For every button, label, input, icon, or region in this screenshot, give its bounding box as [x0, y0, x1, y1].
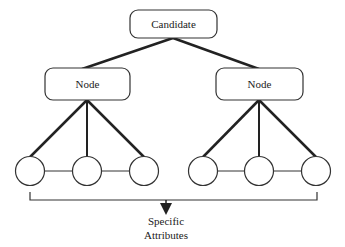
output-label-line1: Specific: [148, 215, 184, 227]
leaf-circle: [189, 157, 218, 186]
leaf-circle: [73, 157, 102, 186]
leaf-circle: [16, 157, 45, 186]
candidate-label: Candidate: [151, 18, 196, 30]
output-label-line2: Attributes: [144, 229, 188, 241]
edge-left-leaf3: [87, 100, 144, 157]
node-label-right: Node: [248, 78, 272, 90]
hierarchy-diagram: Candidate Node Node Specific Attributes: [0, 0, 345, 247]
candidate-box: Candidate: [130, 10, 217, 38]
node-label-left: Node: [76, 78, 100, 90]
edge-right-leaf1: [203, 100, 259, 157]
leaf-circle: [245, 157, 274, 186]
edge-root-left: [82, 38, 173, 69]
edge-root-right: [173, 38, 259, 69]
edge-left-leaf1: [30, 100, 87, 157]
bracket: [30, 192, 317, 200]
node-box-right: Node: [216, 68, 303, 100]
leaf-circle: [302, 157, 331, 186]
node-box-left: Node: [45, 68, 130, 100]
leaf-circle: [130, 157, 159, 186]
edge-right-leaf3: [259, 100, 316, 157]
